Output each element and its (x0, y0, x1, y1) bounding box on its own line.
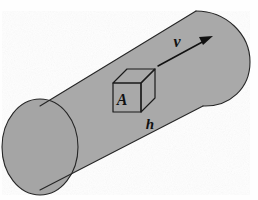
cube-height-label: h (146, 116, 154, 132)
diagram-canvas: A h v (0, 0, 258, 200)
cylinder-diagram-figure: A h v (0, 0, 258, 200)
velocity-label: v (173, 33, 181, 50)
cube-area-label: A (116, 91, 128, 108)
